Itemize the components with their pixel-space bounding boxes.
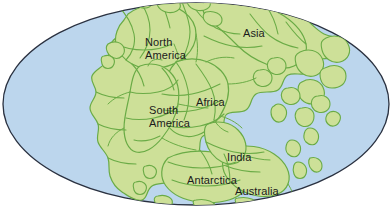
pangaea-map-figure: North America Asia Africa South America … <box>0 0 391 208</box>
pangaea-map-svg <box>0 0 391 208</box>
